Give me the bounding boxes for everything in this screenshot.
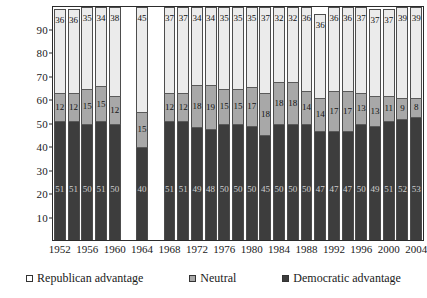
bar-1978[interactable]: 351550 [232, 7, 244, 240]
legend-item[interactable]: Democratic advantage [282, 271, 401, 286]
segment-value-label: 8 [414, 103, 419, 112]
segment-republican-1956: 35 [81, 7, 93, 89]
segment-value-label: 51 [384, 185, 393, 194]
bar-1984[interactable]: 321850 [273, 7, 285, 240]
segment-republican-1970: 37 [177, 7, 189, 93]
segment-republican-1990: 36 [314, 14, 326, 98]
y-tick-label: 20 [4, 188, 48, 200]
segment-democratic-1956: 50 [81, 124, 93, 241]
bar-1982[interactable]: 371845 [259, 7, 271, 240]
segment-value-label: 45 [138, 14, 147, 23]
segment-value-label: 13 [357, 104, 366, 113]
chart-legend: Republican advantageNeutralDemocratic ad… [0, 271, 427, 286]
bar-1966[interactable] [150, 7, 162, 240]
segment-neutral-1974: 19 [205, 85, 217, 129]
x-tick-slot: 1952 [54, 243, 66, 259]
segment-neutral-1960: 12 [109, 96, 121, 124]
bar-1962[interactable] [122, 7, 134, 240]
bar-1954[interactable]: 361251 [68, 7, 80, 240]
segment-democratic-1990: 47 [314, 131, 326, 241]
segment-value-label: 35 [220, 14, 229, 23]
segment-value-label: 50 [247, 185, 256, 194]
bar-1952[interactable]: 361251 [54, 7, 66, 240]
bar-1964[interactable]: 451540 [136, 7, 148, 240]
bar-1988[interactable]: 361450 [301, 7, 313, 240]
segment-value-label: 32 [288, 14, 297, 23]
segment-value-label: 14 [316, 110, 325, 119]
bar-1996[interactable]: 371350 [355, 7, 367, 240]
y-tick-label: 40 [4, 141, 48, 153]
segment-value-label: 39 [412, 14, 421, 23]
segment-republican-1984: 32 [273, 7, 285, 82]
segment-value-label: 39 [398, 14, 407, 23]
legend-item[interactable]: Republican advantage [26, 271, 143, 286]
segment-neutral-1970: 12 [177, 93, 189, 121]
segment-republican-1960: 38 [109, 7, 121, 96]
segment-value-label: 52 [398, 185, 407, 194]
segment-republican-1980: 35 [246, 7, 258, 87]
segment-democratic-2004: 53 [410, 117, 422, 240]
segment-value-label: 50 [220, 185, 229, 194]
bar-1958[interactable]: 341551 [95, 7, 107, 240]
segment-value-label: 18 [288, 99, 297, 108]
segment-republican-1964: 45 [136, 7, 148, 112]
segment-democratic-1980: 50 [246, 126, 258, 240]
segment-neutral-1992: 17 [328, 91, 340, 131]
segment-value-label: 40 [138, 185, 147, 194]
segment-democratic-1996: 50 [355, 124, 367, 241]
segment-neutral-1986: 18 [287, 82, 299, 124]
segment-value-label: 15 [83, 102, 92, 111]
segment-republican-1952: 36 [54, 9, 66, 93]
segment-value-label: 47 [343, 185, 352, 194]
bar-1968[interactable]: 371251 [164, 7, 176, 240]
segment-value-label: 51 [179, 185, 188, 194]
segment-republican-2002: 39 [396, 7, 408, 98]
segment-republican-1958: 34 [95, 7, 107, 86]
bar-1956[interactable]: 351550 [81, 7, 93, 240]
segment-republican-1968: 37 [164, 7, 176, 93]
bar-1986[interactable]: 321850 [287, 7, 299, 240]
x-tick-slot: 1996 [355, 243, 367, 259]
segment-neutral-1976: 15 [218, 89, 230, 124]
bar-1990[interactable]: 361447 [314, 7, 326, 240]
bar-1960[interactable]: 381250 [109, 7, 121, 240]
segment-value-label: 36 [69, 16, 78, 25]
bar-1970[interactable]: 371251 [177, 7, 189, 240]
segment-value-label: 49 [371, 185, 380, 194]
segment-democratic-1958: 51 [95, 121, 107, 240]
bar-1972[interactable]: 341849 [191, 7, 203, 240]
segment-value-label: 14 [302, 103, 311, 112]
segment-value-label: 12 [69, 103, 78, 112]
bar-1974[interactable]: 341948 [205, 7, 217, 240]
bar-1980[interactable]: 351750 [246, 7, 258, 240]
segment-value-label: 50 [357, 185, 366, 194]
segment-value-label: 15 [233, 102, 242, 111]
x-tick-slot: 1980 [246, 243, 258, 259]
segment-democratic-1974: 48 [205, 129, 217, 240]
segment-democratic-2002: 52 [396, 119, 408, 240]
bar-2000[interactable]: 371151 [383, 7, 395, 240]
bar-1994[interactable]: 361747 [342, 7, 354, 240]
segment-republican-1954: 36 [68, 9, 80, 93]
x-tick-label: 2004 [405, 243, 427, 255]
segment-democratic-1984: 50 [273, 124, 285, 241]
bar-2004[interactable]: 39853 [410, 7, 422, 240]
legend-item[interactable]: Neutral [189, 271, 236, 286]
stacked-bar-chart: 102030405060708090 361251361251351550341… [0, 0, 427, 298]
segment-value-label: 37 [371, 16, 380, 25]
x-tick-slot: 1988 [301, 243, 313, 259]
bar-1998[interactable]: 371349 [369, 7, 381, 240]
x-tick-slot: 1972 [191, 243, 203, 259]
bar-2002[interactable]: 39952 [396, 7, 408, 240]
bar-1976[interactable]: 351550 [218, 7, 230, 240]
bar-1992[interactable]: 361747 [328, 7, 340, 240]
segment-neutral-1972: 18 [191, 85, 203, 127]
legend-label: Democratic advantage [293, 271, 401, 286]
segment-value-label: 50 [110, 185, 119, 194]
segment-democratic-1970: 51 [177, 121, 189, 240]
segment-republican-1998: 37 [369, 9, 381, 95]
y-tick-label: 10 [4, 212, 48, 224]
segment-value-label: 34 [206, 14, 215, 23]
segment-value-label: 17 [329, 107, 338, 116]
segment-democratic-1976: 50 [218, 124, 230, 241]
